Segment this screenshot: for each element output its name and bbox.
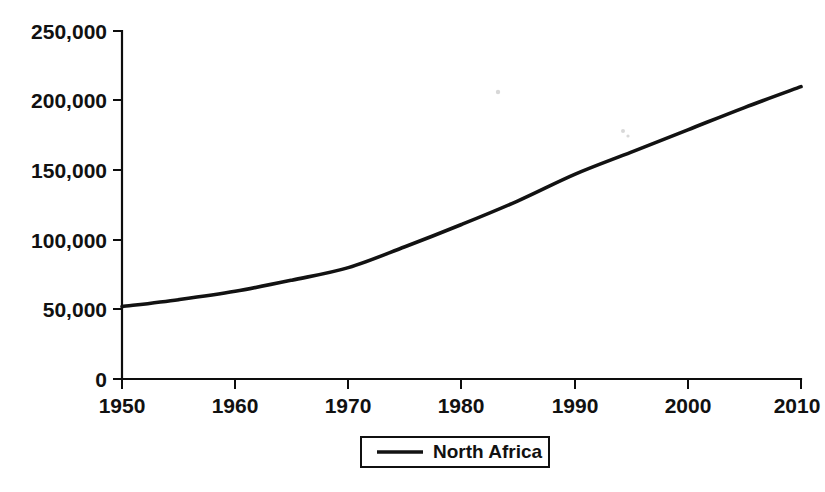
x-tick-label-1980: 1980 [438,394,485,417]
y-tick-label-50000: 50,000 [43,298,107,321]
x-tick-label-1950: 1950 [99,394,146,417]
y-tick-label-100000: 100,000 [31,229,107,252]
x-tick-label-2010: 2010 [774,394,821,417]
x-tick-label-1960: 1960 [212,394,259,417]
chart-figure: 250,000 200,000 150,000 100,000 50,000 0… [0,0,825,492]
x-tick-label-1990: 1990 [552,394,599,417]
scan-speck [496,90,500,94]
legend: North Africa [361,437,549,467]
y-tick-label-0: 0 [95,368,107,391]
y-tick-label-250000: 250,000 [31,20,107,43]
scan-speck [621,129,625,133]
x-tick-label-2000: 2000 [665,394,712,417]
scan-speck [626,134,629,137]
x-tick-label-1970: 1970 [325,394,372,417]
y-tick-label-150000: 150,000 [31,159,107,182]
chart-background [0,0,825,492]
line-chart: 250,000 200,000 150,000 100,000 50,000 0… [0,0,825,492]
legend-label-north-africa: North Africa [433,441,543,462]
y-tick-label-200000: 200,000 [31,89,107,112]
